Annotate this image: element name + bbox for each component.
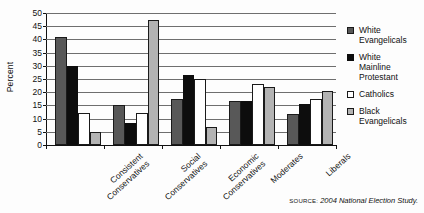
bar[interactable]: [125, 123, 137, 145]
bar[interactable]: [194, 79, 206, 145]
bar[interactable]: [148, 20, 160, 145]
bar[interactable]: [136, 113, 148, 145]
bar[interactable]: [55, 37, 67, 145]
legend-label-line: Black: [359, 106, 407, 116]
legend-item[interactable]: WhiteEvangelicals: [347, 25, 424, 45]
y-axis-tick-label: 45: [33, 21, 42, 31]
y-axis-tick-label: 50: [33, 8, 42, 18]
legend-label: BlackEvangelicals: [359, 106, 407, 126]
x-axis-tick-mark: [220, 145, 221, 149]
chart-legend: WhiteEvangelicalsWhiteMainlineProtestant…: [347, 25, 424, 133]
bar-group: [46, 13, 104, 145]
plot-area: 05101520253035404550: [46, 13, 336, 145]
x-axis-category-label: SocialConservatives: [155, 151, 208, 202]
legend-item[interactable]: WhiteMainlineProtestant: [347, 52, 424, 82]
source-note: SOURCE: 2004 National Election Study.: [289, 196, 418, 205]
legend-label-line: Evangelicals: [359, 116, 407, 126]
x-axis-tick-mark: [46, 145, 47, 149]
legend-swatch: [347, 54, 354, 61]
bars-layer: [46, 13, 336, 145]
bar[interactable]: [206, 127, 218, 145]
y-axis-tick-label: 35: [33, 48, 42, 58]
bar[interactable]: [90, 132, 102, 145]
x-axis-category-label: EconomicConservatives: [213, 151, 266, 202]
x-axis-tick-mark: [104, 145, 105, 149]
bar[interactable]: [113, 105, 125, 145]
legend-swatch: [347, 91, 354, 98]
legend-label: Catholics: [359, 89, 394, 99]
legend-item[interactable]: BlackEvangelicals: [347, 106, 424, 126]
bar[interactable]: [229, 101, 241, 145]
bar[interactable]: [241, 101, 253, 145]
y-axis-tick-label: 10: [33, 114, 42, 124]
y-axis-tick-label: 0: [37, 140, 42, 150]
legend-label-line: Protestant: [359, 72, 398, 82]
bar[interactable]: [322, 91, 334, 145]
x-axis-tick-mark: [336, 145, 337, 149]
bar[interactable]: [67, 66, 79, 145]
source-text: 2004 National Election Study.: [320, 196, 418, 205]
bar[interactable]: [78, 113, 90, 145]
bar-group: [278, 13, 336, 145]
y-axis-title: Percent: [5, 47, 15, 107]
y-axis-tick-label: 40: [33, 34, 42, 44]
legend-swatch: [347, 108, 354, 115]
source-prefix: SOURCE:: [289, 198, 318, 204]
legend-label-line: Evangelicals: [359, 35, 407, 45]
x-axis-category-label: Moderates: [268, 151, 305, 185]
bar[interactable]: [264, 87, 276, 145]
bar-chart-figure: Percent 05101520253035404550 ConsistentC…: [0, 0, 424, 213]
bar-group: [162, 13, 220, 145]
legend-label: WhiteEvangelicals: [359, 25, 407, 45]
gridline: [46, 145, 336, 146]
x-axis-category-label: Liberals: [323, 151, 352, 178]
x-axis-label-line: Moderates: [268, 151, 305, 185]
legend-label: WhiteMainlineProtestant: [359, 52, 398, 82]
x-axis-category-label: ConsistentConservatives: [97, 151, 150, 202]
legend-item[interactable]: Catholics: [347, 89, 424, 99]
y-axis-tick-label: 25: [33, 74, 42, 84]
x-axis-label-line: Liberals: [323, 151, 352, 178]
bar-group: [220, 13, 278, 145]
legend-label-line: White: [359, 52, 398, 62]
y-axis-tick-label: 15: [33, 100, 42, 110]
y-axis-tick-label: 5: [37, 127, 42, 137]
bar[interactable]: [252, 84, 264, 145]
bar[interactable]: [299, 104, 311, 145]
y-axis-tick-label: 30: [33, 61, 42, 71]
y-axis-tick-label: 20: [33, 87, 42, 97]
legend-label-line: Catholics: [359, 89, 394, 99]
x-axis-tick-mark: [278, 145, 279, 149]
bar[interactable]: [310, 99, 322, 145]
legend-label-line: Mainline: [359, 62, 398, 72]
legend-swatch: [347, 27, 354, 34]
x-axis-tick-mark: [162, 145, 163, 149]
bar[interactable]: [183, 75, 195, 145]
bar-group: [104, 13, 162, 145]
legend-label-line: White: [359, 25, 407, 35]
bar[interactable]: [171, 99, 183, 145]
bar[interactable]: [287, 114, 299, 145]
